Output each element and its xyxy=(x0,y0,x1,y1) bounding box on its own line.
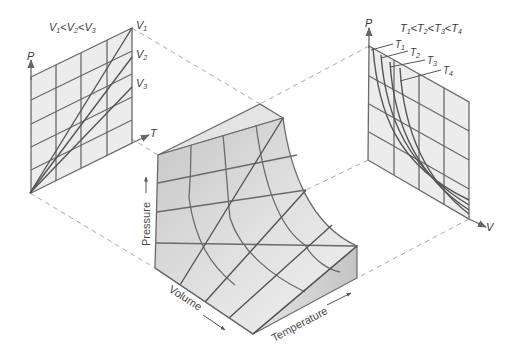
left-panel-title: V1<V2<V3 xyxy=(49,21,96,34)
pvt-diagram: V1<V2<V3 P T V1 V2 V3 T1<T2<T3<T4 P V T1… xyxy=(0,0,511,353)
pt-projection-panel xyxy=(30,28,149,193)
isotherm-label-t2: T2 xyxy=(410,47,420,59)
volume-arrow-icon xyxy=(203,315,225,330)
isotherm-label-t3: T3 xyxy=(427,55,437,67)
isochore-label-v1: V1 xyxy=(136,19,147,32)
pressure-axis-label: Pressure xyxy=(140,202,152,246)
temperature-arrow-icon xyxy=(327,293,351,305)
left-t-axis-label: T xyxy=(150,127,158,139)
isotherm-label-t4: T4 xyxy=(443,65,453,77)
isotherm-label-t1: T1 xyxy=(395,39,405,51)
isochore-label-v2: V2 xyxy=(136,48,147,61)
left-p-axis-label: P xyxy=(27,50,35,62)
right-v-axis-label: V xyxy=(486,221,495,233)
isochore-label-v3: V3 xyxy=(136,77,147,90)
right-p-axis-label: P xyxy=(365,17,373,29)
right-panel-title: T1<T2<T3<T4 xyxy=(400,22,462,35)
v-axis-arrow xyxy=(469,219,486,227)
t-axis-arrow xyxy=(132,135,149,143)
